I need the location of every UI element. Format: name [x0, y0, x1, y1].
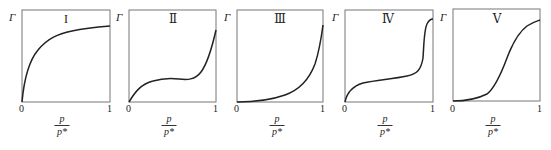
isotherm-curve: [237, 25, 323, 102]
y-axis-label: Γ: [332, 11, 338, 23]
plot-area: [431, 0, 551, 110]
x-tick-0: 0: [342, 103, 347, 114]
x-tick-0: 0: [450, 103, 455, 114]
x-label-denominator: p*: [57, 127, 67, 137]
x-tick-0: 0: [19, 103, 24, 114]
y-axis-label: Γ: [9, 11, 15, 23]
x-label-denominator: p*: [380, 127, 390, 137]
x-axis-label: p p*: [486, 114, 501, 137]
x-label-numerator: p: [383, 114, 388, 124]
x-label-denominator: p*: [272, 127, 282, 137]
y-axis-label: Γ: [116, 11, 122, 23]
isotherm-curve: [22, 26, 110, 102]
x-axis-label: p p*: [162, 114, 177, 137]
isotherm-panel-2: Γ Ⅱ 0 1 p p*: [107, 0, 217, 150]
plot-area: [107, 0, 217, 110]
isotherm-panel-1: Γ I 0 1 p p*: [0, 0, 110, 150]
x-tick-1: 1: [537, 103, 542, 114]
panel-label: Ⅴ: [493, 12, 502, 27]
x-tick-0: 0: [234, 103, 239, 114]
panel-label: Ⅳ: [382, 12, 394, 27]
isotherm-panel-3: Γ Ⅲ 0 1 p p*: [215, 0, 325, 150]
panel-label: Ⅱ: [169, 12, 177, 27]
isotherm-curve: [453, 20, 540, 101]
x-label-numerator: p: [60, 114, 65, 124]
x-label-denominator: p*: [488, 127, 498, 137]
x-label-denominator: p*: [164, 127, 174, 137]
isotherm-panel-5: Γ Ⅴ 0 1 p p*: [431, 0, 541, 150]
x-label-numerator: p: [275, 114, 280, 124]
x-axis-label: p p*: [378, 114, 393, 137]
x-label-numerator: p: [491, 114, 496, 124]
x-tick-0: 0: [126, 103, 131, 114]
x-axis-label: p p*: [55, 114, 70, 137]
isotherm-curve: [345, 19, 433, 102]
x-label-numerator: p: [167, 114, 172, 124]
panel-label: I: [64, 12, 68, 27]
plot-area: [0, 0, 110, 110]
y-axis-label: Γ: [440, 11, 446, 23]
x-axis-label: p p*: [270, 114, 285, 137]
panel-label: Ⅲ: [274, 12, 286, 27]
plot-area: [215, 0, 325, 110]
isotherm-panel-4: Γ Ⅳ 0 1 p p*: [323, 0, 433, 150]
isotherm-curve: [129, 30, 216, 102]
y-axis-label: Γ: [224, 11, 230, 23]
plot-area: [323, 0, 433, 110]
